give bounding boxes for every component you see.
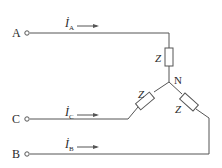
impedance-label-b: Z [175,103,182,115]
impedance-b [180,93,199,111]
circuit-diagram: A C B İA İC İB Z Z Z N [0,0,222,168]
impedance-a [165,48,173,66]
terminal-label-c: C [12,112,20,126]
current-label-ic: İC [64,105,74,121]
impedance-label-a: Z [155,52,162,64]
terminal-label-b: B [12,147,20,161]
current-label-ia: İA [64,16,74,32]
impedance-label-c: Z [138,88,145,100]
neutral-label: N [174,74,182,86]
wire-n-to-zc [154,82,169,92]
wire-zc-down [128,107,138,119]
arrowhead-ic [93,113,99,117]
terminal-b [25,152,29,156]
arrowhead-ib [93,145,99,149]
terminal-a [25,31,29,35]
terminal-c [25,117,29,121]
terminal-label-a: A [12,26,21,40]
arrowhead-ia [93,24,99,28]
current-label-ib: İB [64,137,74,153]
wire-zb-down [196,109,209,118]
